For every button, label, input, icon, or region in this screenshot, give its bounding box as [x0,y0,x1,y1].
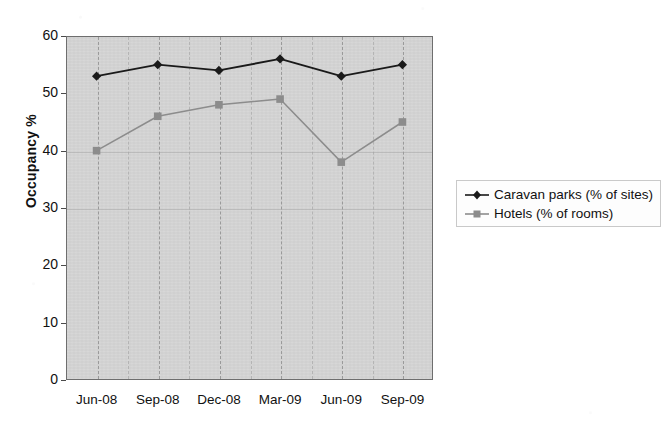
legend-label-hotels: Hotels (% of rooms) [494,207,613,221]
y-tick-label: 50 [20,84,58,100]
horizontal-band [67,152,432,153]
vertical-gridline [281,37,282,379]
y-tick-label: 60 [20,27,58,43]
y-tick-mark [61,380,66,381]
vertical-gridline-minor [312,37,313,379]
plot-area [66,36,433,380]
horizontal-band [67,209,432,210]
chart-legend: Caravan parks (% of sites) Hotels (% of … [456,180,661,227]
x-tick-label: Sep-09 [362,392,442,407]
y-tick-label: 0 [20,371,58,387]
vertical-gridline [403,37,404,379]
y-tick-label: 40 [20,142,58,158]
vertical-gridline-minor [251,37,252,379]
diamond-marker-icon [464,188,490,202]
vertical-gridline [159,37,160,379]
vertical-gridline [342,37,343,379]
y-tick-label: 10 [20,314,58,330]
y-tick-label: 20 [20,256,58,272]
legend-item-hotels: Hotels (% of rooms) [464,205,654,223]
vertical-gridline-minor [128,37,129,379]
line-chart: Occupancy % 0102030405060 Jun-08Sep-08De… [0,0,671,430]
legend-item-caravan-parks: Caravan parks (% of sites) [464,186,654,204]
vertical-gridline [220,37,221,379]
legend-label-caravan-parks: Caravan parks (% of sites) [494,188,653,202]
plot-texture [67,37,432,379]
vertical-gridline-minor [373,37,374,379]
vertical-gridline [98,37,99,379]
square-marker-icon [464,207,490,221]
y-tick-label: 30 [20,199,58,215]
vertical-gridline-minor [189,37,190,379]
